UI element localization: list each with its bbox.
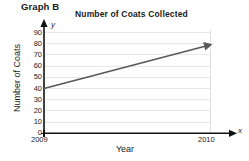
y-tick-label: 60 <box>22 62 42 70</box>
chart-figure: Graph B Number of Coats Collected Number… <box>0 0 249 161</box>
x-tick-label-2009: 2009 <box>31 136 48 144</box>
y-tick-label: 50 <box>22 73 42 81</box>
data-line-series-1 <box>44 42 213 88</box>
y-tick-label: 80 <box>22 40 42 48</box>
y-tick-label: 70 <box>22 51 42 59</box>
x-tick-label-2010: 2010 <box>198 136 215 144</box>
y-tick-label: 30 <box>22 96 42 104</box>
horizontal-gridlines <box>44 33 211 123</box>
y-axis-letter: y <box>51 20 55 29</box>
x-axis-letter: x <box>238 126 242 135</box>
y-tick-label: 90 <box>22 29 42 37</box>
y-tick-label: 20 <box>22 107 42 115</box>
y-tick-label: 10 <box>22 118 42 126</box>
y-tick-label: 40 <box>22 85 42 93</box>
